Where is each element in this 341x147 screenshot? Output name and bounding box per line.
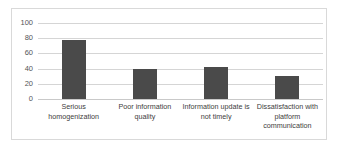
y-axis-tick-label: 80 <box>25 34 33 42</box>
category-label: Information update is not timely <box>181 102 252 142</box>
y-axis-tick-label: 40 <box>25 65 33 73</box>
y-axis-tick-label: 60 <box>25 50 33 58</box>
y-axis-tick-label: 100 <box>20 19 33 27</box>
plot-area: 020406080100 <box>38 23 323 99</box>
bar[interactable] <box>62 40 86 99</box>
bar[interactable] <box>133 69 157 99</box>
category-label: Serious homogenization <box>38 102 109 142</box>
category-axis-labels: Serious homogenizationPoor information q… <box>38 102 323 142</box>
category-label: Poor information quality <box>109 102 180 142</box>
y-axis-tick-label: 0 <box>29 95 33 103</box>
gridline-0: 0 <box>38 99 323 100</box>
bar[interactable] <box>204 67 228 99</box>
bars-group <box>38 23 323 99</box>
bar[interactable] <box>275 76 299 99</box>
y-axis-tick-label: 20 <box>25 80 33 88</box>
category-label: Dissatisfaction with platform communicat… <box>252 102 323 142</box>
chart-frame: 020406080100 Serious homogenizationPoor … <box>11 8 327 140</box>
